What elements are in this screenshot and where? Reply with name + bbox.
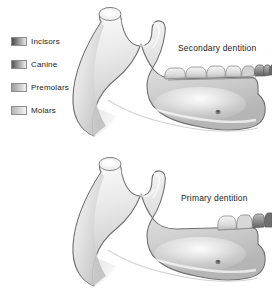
legend-swatch-canine bbox=[11, 60, 27, 69]
tooth-premolar bbox=[242, 66, 255, 77]
legend-label-premolars: Premolars bbox=[31, 83, 69, 92]
tooth-premolar bbox=[237, 215, 253, 229]
body-highlight-primary bbox=[154, 237, 246, 271]
legend-label-molars: Molars bbox=[31, 106, 56, 115]
mental-foramen-core-secondary bbox=[217, 110, 220, 112]
legend-swatch-premolars bbox=[11, 83, 27, 92]
tooth-row-primary bbox=[218, 213, 272, 230]
tooth-incisor bbox=[270, 65, 272, 75]
mandible-angle-secondary bbox=[93, 108, 116, 136]
tooth-canine bbox=[253, 214, 265, 228]
tooth-type-legend: Incisors Canine Premolars Molars bbox=[11, 36, 85, 128]
caption-primary-dentition: Primary dentition bbox=[181, 193, 248, 203]
legend-item-premolars: Premolars bbox=[11, 82, 85, 92]
legend-item-canine: Canine bbox=[11, 59, 85, 69]
legend-item-molars: Molars bbox=[11, 105, 85, 115]
tooth-molar bbox=[186, 67, 207, 78]
mandible-secondary bbox=[73, 8, 272, 137]
tooth-molar bbox=[165, 68, 186, 79]
legend-item-incisors: Incisors bbox=[11, 36, 85, 46]
condyle-highlight-primary bbox=[102, 159, 116, 166]
tooth-canine bbox=[255, 65, 265, 76]
caption-secondary-dentition: Secondary dentition bbox=[178, 43, 256, 53]
legend-label-incisors: Incisors bbox=[31, 37, 60, 46]
mandible-primary bbox=[73, 158, 272, 287]
tooth-incisor bbox=[265, 213, 272, 227]
tooth-premolar bbox=[226, 66, 242, 77]
tooth-molar bbox=[207, 66, 226, 78]
mandible-angle-primary bbox=[93, 258, 116, 286]
legend-swatch-molars bbox=[11, 106, 27, 115]
legend-swatch-incisors bbox=[11, 37, 27, 46]
figure-root: Incisors Canine Premolars Molars Seconda… bbox=[0, 0, 272, 300]
mental-foramen-core-primary bbox=[217, 260, 220, 262]
tooth-row-secondary bbox=[165, 65, 272, 79]
condyle-highlight-secondary bbox=[102, 9, 116, 16]
legend-label-canine: Canine bbox=[31, 60, 57, 69]
body-highlight-secondary bbox=[154, 87, 246, 121]
tooth-molar bbox=[218, 216, 237, 230]
